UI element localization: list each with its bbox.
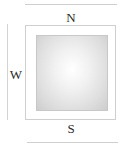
left-divider-line bbox=[7, 24, 8, 120]
west-label: W bbox=[9, 68, 23, 81]
north-label: N bbox=[64, 11, 78, 24]
bottom-divider-line bbox=[27, 142, 118, 143]
inner-panel bbox=[36, 35, 108, 111]
top-divider-line bbox=[25, 4, 117, 5]
south-label: S bbox=[64, 122, 78, 135]
